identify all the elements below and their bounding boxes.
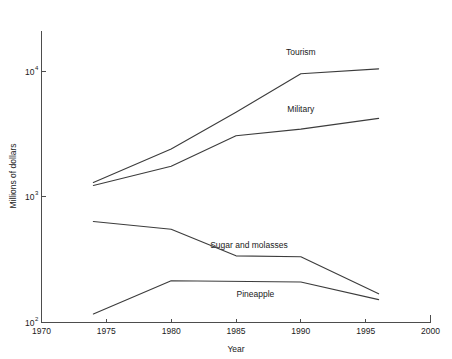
series-line-tourism — [93, 69, 378, 183]
chart-figure: 1970197519801985199019952000 102103104 T… — [0, 0, 452, 359]
x-tick-label-1980: 1980 — [162, 326, 181, 336]
y-tick-exponent-2: 2 — [35, 316, 39, 322]
x-tick-label-1995: 1995 — [356, 326, 375, 336]
data-series-group — [93, 69, 378, 314]
series-line-sugar-and-molasses — [93, 221, 378, 293]
y-tick-label-10^3: 10 — [25, 192, 35, 202]
series-label-tourism: Tourism — [286, 47, 316, 57]
y-tick-label-10^2: 10 — [25, 318, 35, 328]
series-annotation-group: TourismMilitarySugar and molassesPineapp… — [210, 47, 315, 299]
x-axis-title: Year — [227, 344, 244, 354]
y-axis-ticks — [42, 71, 46, 322]
x-tick-label-1985: 1985 — [227, 326, 246, 336]
plot-frame — [42, 31, 431, 323]
y-tick-exponent-4: 4 — [35, 65, 39, 71]
x-tick-label-1975: 1975 — [97, 326, 116, 336]
y-tick-label-10^4: 10 — [25, 67, 35, 77]
x-axis-tick-labels: 1970197519801985199019952000 — [32, 326, 440, 336]
x-axis-ticks — [106, 319, 365, 323]
y-axis-title: Millions of dollars — [8, 143, 18, 208]
y-tick-exponent-3: 3 — [35, 190, 39, 196]
x-tick-label-1990: 1990 — [291, 326, 310, 336]
chart-canvas: 1970197519801985199019952000 102103104 T… — [0, 0, 452, 359]
y-axis-tick-labels: 102103104 — [25, 65, 39, 328]
axis-frame — [42, 31, 431, 323]
x-tick-label-1970: 1970 — [32, 326, 51, 336]
series-label-sugar-and-molasses: Sugar and molasses — [210, 240, 288, 250]
x-tick-label-2000: 2000 — [421, 326, 440, 336]
series-line-military — [93, 118, 378, 185]
series-label-military: Military — [287, 104, 315, 114]
series-label-pineapple: Pineapple — [237, 289, 275, 299]
